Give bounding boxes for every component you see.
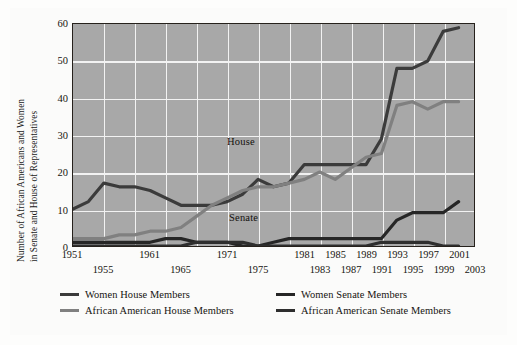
legend-swatch-icon bbox=[60, 293, 79, 296]
legend-label: African American House Members bbox=[85, 305, 234, 316]
y-tick-label: 10 bbox=[58, 204, 69, 215]
y-axis-title-line-1: Number of African Americans and Women bbox=[16, 14, 26, 262]
x-tick-label: 1971 bbox=[217, 249, 238, 260]
x-tick-label: 1955 bbox=[93, 264, 114, 275]
x-tick-label: 1991 bbox=[372, 264, 393, 275]
y-tick-label: 30 bbox=[58, 130, 69, 141]
x-tick-label: 1975 bbox=[248, 264, 269, 275]
annotation-house: House bbox=[227, 136, 255, 147]
y-axis-tick-labels: 0102030405060 bbox=[46, 18, 68, 262]
legend-item: Women House Members bbox=[60, 289, 190, 300]
legend-item: Women Senate Members bbox=[276, 289, 407, 300]
legend-label: African American Senate Members bbox=[301, 305, 451, 316]
legend-swatch-icon bbox=[276, 293, 295, 296]
x-tick-label: 1983 bbox=[310, 264, 331, 275]
x-tick-label: 1961 bbox=[139, 249, 160, 260]
x-tick-label: 1985 bbox=[325, 249, 346, 260]
x-tick-label: 1965 bbox=[170, 264, 191, 275]
series-lines bbox=[73, 24, 474, 246]
x-tick-label: 2003 bbox=[465, 264, 486, 275]
x-tick-label: 1981 bbox=[294, 249, 315, 260]
x-tick-label: 1987 bbox=[341, 264, 362, 275]
y-tick-label: 20 bbox=[58, 167, 69, 178]
x-tick-label: 1993 bbox=[387, 249, 408, 260]
x-tick-label: 1997 bbox=[418, 249, 439, 260]
plot-area: House Senate bbox=[72, 23, 475, 247]
chart-legend: Women House MembersAfrican American Hous… bbox=[60, 289, 480, 323]
x-tick-label: 1989 bbox=[356, 249, 377, 260]
figure-root: Number of African Americans and Women in… bbox=[0, 0, 517, 345]
annotation-senate: Senate bbox=[229, 212, 258, 223]
x-axis-tick-labels: 1951195519611965197119751981198319851987… bbox=[72, 249, 475, 283]
y-tick-label: 50 bbox=[58, 55, 69, 66]
series-line bbox=[73, 28, 459, 209]
x-tick-label: 2001 bbox=[449, 249, 470, 260]
y-axis-title: Number of African Americans and Women in… bbox=[14, 14, 48, 262]
y-tick-label: 60 bbox=[58, 18, 69, 29]
legend-item: African American House Members bbox=[60, 305, 234, 316]
y-tick-label: 40 bbox=[58, 92, 69, 103]
legend-swatch-icon bbox=[60, 309, 79, 312]
x-tick-label: 1951 bbox=[62, 249, 83, 260]
y-axis-title-line-2: in Senate and House of Representatives bbox=[29, 14, 39, 262]
legend-label: Women House Members bbox=[85, 289, 190, 300]
legend-item: African American Senate Members bbox=[276, 305, 451, 316]
legend-swatch-icon bbox=[276, 309, 295, 312]
series-line bbox=[73, 202, 459, 246]
legend-label: Women Senate Members bbox=[301, 289, 407, 300]
x-tick-label: 1999 bbox=[434, 264, 455, 275]
x-tick-label: 1995 bbox=[403, 264, 424, 275]
